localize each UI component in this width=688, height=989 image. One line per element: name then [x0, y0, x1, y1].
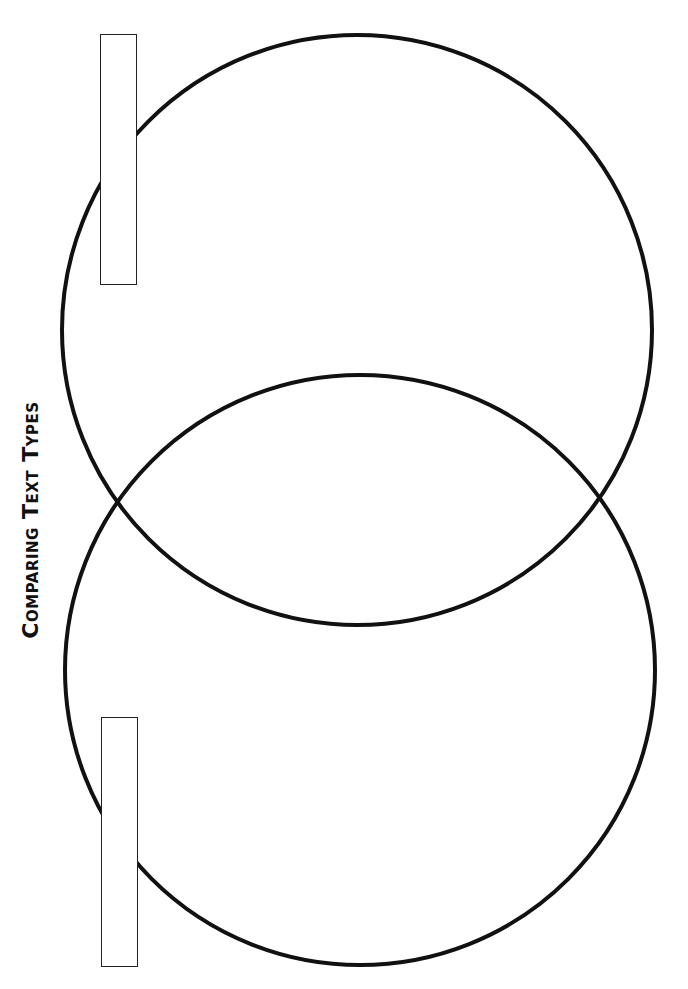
bottom-circle-label-box[interactable]: [101, 717, 138, 967]
top-circle-label-box[interactable]: [100, 34, 137, 285]
bottom-circle: [65, 375, 655, 965]
top-circle: [62, 35, 652, 625]
page-title: Comparing Text Types: [18, 401, 43, 638]
